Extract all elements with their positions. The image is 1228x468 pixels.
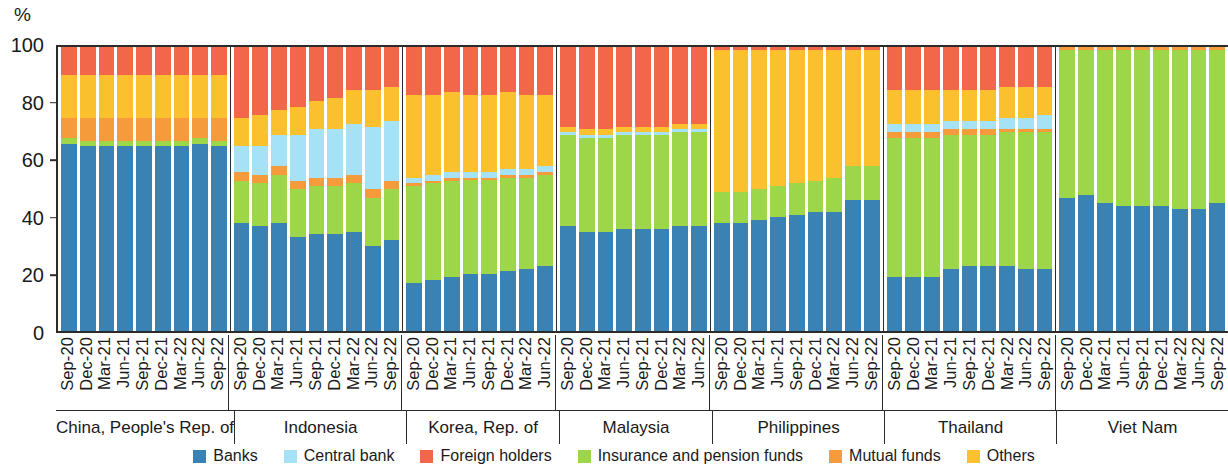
bar-segment-insurance_pension[interactable] bbox=[463, 180, 479, 274]
bar-segment-others[interactable] bbox=[211, 75, 227, 118]
stacked-bar[interactable] bbox=[770, 47, 786, 331]
bar-segment-banks[interactable] bbox=[751, 220, 767, 331]
stacked-bar[interactable] bbox=[691, 47, 707, 331]
bar-segment-insurance_pension[interactable] bbox=[309, 186, 325, 234]
bar-segment-banks[interactable] bbox=[481, 274, 497, 331]
stacked-bar[interactable] bbox=[924, 47, 940, 331]
bar-segment-banks[interactable] bbox=[733, 223, 749, 331]
bar-segment-others[interactable] bbox=[117, 75, 133, 118]
bar-segment-foreign_holders[interactable] bbox=[384, 47, 400, 87]
bar-segment-insurance_pension[interactable] bbox=[864, 166, 880, 200]
legend-item-foreign_holders[interactable]: Foreign holders bbox=[420, 447, 551, 465]
stacked-bar[interactable] bbox=[309, 47, 325, 331]
bar-segment-others[interactable] bbox=[751, 50, 767, 189]
bar-segment-others[interactable] bbox=[61, 75, 77, 118]
stacked-bar[interactable] bbox=[560, 47, 576, 331]
stacked-bar[interactable] bbox=[192, 47, 208, 331]
bar-segment-others[interactable] bbox=[962, 90, 978, 121]
bar-segment-mutual_funds[interactable] bbox=[252, 175, 268, 184]
bar-segment-foreign_holders[interactable] bbox=[579, 47, 595, 129]
stacked-bar[interactable] bbox=[1134, 47, 1150, 331]
bar-segment-insurance_pension[interactable] bbox=[1116, 50, 1132, 206]
stacked-bar[interactable] bbox=[406, 47, 422, 331]
bar-segment-insurance_pension[interactable] bbox=[346, 183, 362, 231]
stacked-bar[interactable] bbox=[1191, 47, 1207, 331]
bar-segment-insurance_pension[interactable] bbox=[654, 135, 670, 229]
bar-segment-others[interactable] bbox=[365, 90, 381, 127]
bar-segment-others[interactable] bbox=[444, 92, 460, 172]
stacked-bar[interactable] bbox=[444, 47, 460, 331]
stacked-bar[interactable] bbox=[845, 47, 861, 331]
bar-segment-banks[interactable] bbox=[905, 277, 921, 331]
bar-segment-insurance_pension[interactable] bbox=[770, 186, 786, 217]
stacked-bar[interactable] bbox=[290, 47, 306, 331]
stacked-bar[interactable] bbox=[635, 47, 651, 331]
bar-segment-insurance_pension[interactable] bbox=[537, 175, 553, 266]
bar-segment-banks[interactable] bbox=[290, 237, 306, 331]
bar-segment-banks[interactable] bbox=[1059, 198, 1075, 331]
bar-segment-foreign_holders[interactable] bbox=[500, 47, 516, 92]
bar-segment-others[interactable] bbox=[789, 50, 805, 183]
stacked-bar[interactable] bbox=[1078, 47, 1094, 331]
bar-segment-insurance_pension[interactable] bbox=[327, 186, 343, 234]
bar-segment-insurance_pension[interactable] bbox=[691, 132, 707, 226]
legend-item-mutual_funds[interactable]: Mutual funds bbox=[829, 447, 941, 465]
bar-segment-banks[interactable] bbox=[560, 226, 576, 331]
bar-segment-foreign_holders[interactable] bbox=[560, 47, 576, 127]
bar-segment-insurance_pension[interactable] bbox=[962, 135, 978, 266]
bar-segment-banks[interactable] bbox=[406, 283, 422, 331]
legend-item-others[interactable]: Others bbox=[967, 447, 1035, 465]
stacked-bar[interactable] bbox=[327, 47, 343, 331]
bar-segment-banks[interactable] bbox=[1097, 203, 1113, 331]
bar-segment-central_bank[interactable] bbox=[887, 124, 903, 133]
bar-segment-others[interactable] bbox=[234, 118, 250, 146]
bar-segment-banks[interactable] bbox=[962, 266, 978, 331]
stacked-bar[interactable] bbox=[99, 47, 115, 331]
bar-segment-banks[interactable] bbox=[943, 269, 959, 331]
bar-segment-banks[interactable] bbox=[1153, 206, 1169, 331]
bar-segment-mutual_funds[interactable] bbox=[271, 166, 287, 175]
bar-segment-foreign_holders[interactable] bbox=[598, 47, 614, 129]
bar-segment-insurance_pension[interactable] bbox=[635, 135, 651, 229]
bar-segment-others[interactable] bbox=[845, 50, 861, 166]
bar-segment-mutual_funds[interactable] bbox=[80, 118, 96, 141]
stacked-bar[interactable] bbox=[808, 47, 824, 331]
bar-segment-others[interactable] bbox=[733, 50, 749, 192]
bar-segment-central_bank[interactable] bbox=[943, 121, 959, 130]
bar-segment-banks[interactable] bbox=[999, 266, 1015, 331]
bar-segment-banks[interactable] bbox=[654, 229, 670, 331]
bar-segment-insurance_pension[interactable] bbox=[1059, 50, 1075, 198]
bar-segment-banks[interactable] bbox=[136, 146, 152, 331]
stacked-bar[interactable] bbox=[1172, 47, 1188, 331]
bar-segment-banks[interactable] bbox=[155, 146, 171, 331]
stacked-bar[interactable] bbox=[537, 47, 553, 331]
stacked-bar[interactable] bbox=[905, 47, 921, 331]
stacked-bar[interactable] bbox=[481, 47, 497, 331]
bar-segment-others[interactable] bbox=[943, 90, 959, 121]
stacked-bar[interactable] bbox=[616, 47, 632, 331]
bar-segment-banks[interactable] bbox=[789, 215, 805, 331]
bar-segment-insurance_pension[interactable] bbox=[500, 178, 516, 272]
bar-segment-insurance_pension[interactable] bbox=[384, 189, 400, 240]
bar-segment-banks[interactable] bbox=[271, 223, 287, 331]
bar-segment-banks[interactable] bbox=[1037, 269, 1053, 331]
bar-segment-foreign_holders[interactable] bbox=[924, 47, 940, 90]
stacked-bar[interactable] bbox=[425, 47, 441, 331]
stacked-bar[interactable] bbox=[733, 47, 749, 331]
bar-segment-banks[interactable] bbox=[365, 246, 381, 331]
bar-segment-central_bank[interactable] bbox=[271, 135, 287, 166]
bar-segment-central_bank[interactable] bbox=[980, 121, 996, 130]
bar-segment-central_bank[interactable] bbox=[962, 121, 978, 130]
bar-segment-banks[interactable] bbox=[99, 146, 115, 331]
stacked-bar[interactable] bbox=[1097, 47, 1113, 331]
bar-segment-banks[interactable] bbox=[1209, 203, 1225, 331]
bar-segment-banks[interactable] bbox=[174, 146, 190, 331]
bar-segment-others[interactable] bbox=[192, 75, 208, 118]
bar-segment-insurance_pension[interactable] bbox=[290, 189, 306, 237]
bar-segment-insurance_pension[interactable] bbox=[887, 138, 903, 277]
bar-segment-foreign_holders[interactable] bbox=[1037, 47, 1053, 87]
bar-segment-insurance_pension[interactable] bbox=[905, 138, 921, 277]
legend-item-insurance_pension[interactable]: Insurance and pension funds bbox=[578, 447, 803, 465]
bar-segment-insurance_pension[interactable] bbox=[1209, 50, 1225, 203]
bar-segment-banks[interactable] bbox=[1018, 269, 1034, 331]
